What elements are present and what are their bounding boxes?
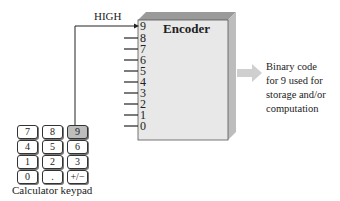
output-line: Binary code xyxy=(266,60,340,74)
keypad-caption: Calculator keypad xyxy=(12,184,92,196)
key-9[interactable]: 9 xyxy=(67,125,88,139)
key-3[interactable]: 3 xyxy=(67,155,88,169)
output-line: for 9 used for xyxy=(266,74,340,88)
key-6[interactable]: 6 xyxy=(67,140,88,154)
high-label: HIGH xyxy=(94,10,122,22)
input-lines xyxy=(124,38,138,126)
key-5[interactable]: 5 xyxy=(42,140,63,154)
key-0[interactable]: 0 xyxy=(17,170,38,184)
key-plus-minus[interactable]: +/− xyxy=(67,170,88,184)
encoder-box-side xyxy=(228,12,236,140)
output-line: computation xyxy=(266,102,340,116)
encoder-box-front xyxy=(138,20,228,140)
encoder-box-top xyxy=(138,12,236,20)
key-8[interactable]: 8 xyxy=(42,125,63,139)
key-7[interactable]: 7 xyxy=(17,125,38,139)
input-pin-0: 0 xyxy=(140,120,146,132)
output-arrow-icon xyxy=(237,64,262,82)
key-2[interactable]: 2 xyxy=(42,155,63,169)
key-4[interactable]: 4 xyxy=(17,140,38,154)
key-decimal[interactable]: . xyxy=(42,170,63,184)
encoder-title: Encoder xyxy=(163,21,210,37)
output-description: Binary code for 9 used for storage and/o… xyxy=(266,60,340,116)
high-signal-wire xyxy=(75,26,134,125)
output-line: storage and/or xyxy=(266,88,340,102)
key-1[interactable]: 1 xyxy=(17,155,38,169)
